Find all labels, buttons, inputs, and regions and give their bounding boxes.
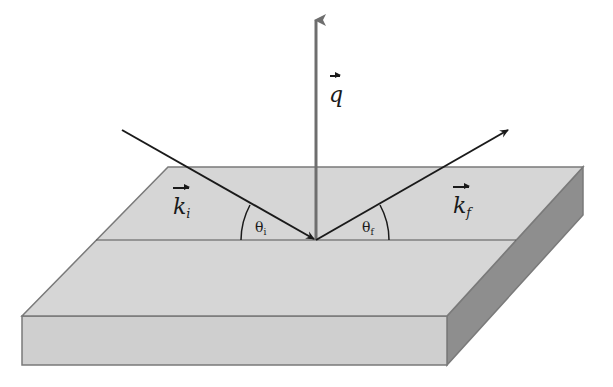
scattering-diagram [0,0,613,387]
q-symbol: q [329,82,343,107]
theta-i-subscript: i [263,227,266,237]
q-vector-overarrow-icon [330,75,340,77]
ki-label: ki [173,196,191,220]
kf-subscript: f [466,205,471,220]
q-label: q [329,84,343,106]
theta-i-label: θi [255,220,266,237]
kf-vector-overarrow-icon [453,186,469,188]
kf-label: kf [453,195,471,219]
ki-vector-overarrow-icon [173,187,189,189]
slab-front-face [22,316,447,365]
kf-symbol: k [453,193,466,218]
ki-subscript: i [186,206,190,221]
theta-f-subscript: f [370,227,373,237]
theta-f-label: θf [362,220,374,237]
ki-symbol: k [173,194,186,219]
